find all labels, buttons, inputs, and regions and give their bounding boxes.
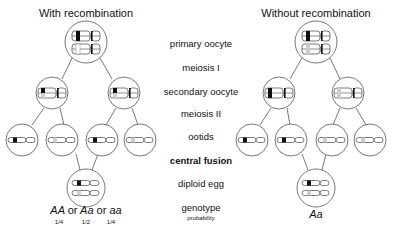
or-text: or [97, 204, 107, 216]
or-text: or [68, 204, 78, 216]
left-genotypes: AA or Aa or aa [50, 204, 121, 216]
left-panel-title: With recombination [39, 7, 133, 19]
stage-meiosis-2: meiosis II [181, 108, 221, 119]
prob-aa: 1/4 [107, 219, 115, 225]
genotype-Aa: Aa [80, 204, 93, 216]
prob-AA: 1/4 [55, 219, 63, 225]
stage-primary-oocyte: primary oocyte [170, 38, 232, 49]
stage-secondary-oocyte: secondary oocyte [164, 86, 238, 97]
stage-meiosis-1: meiosis I [182, 62, 219, 73]
stage-probability: probability [187, 215, 214, 221]
right-genotype: Aa [309, 208, 322, 220]
prob-Aa: 1/2 [82, 219, 90, 225]
stage-ootids: ootids [188, 131, 213, 142]
genotype-AA: AA [50, 204, 64, 216]
stage-genotype: genotype [181, 202, 220, 213]
right-panel-title: Without recombination [261, 7, 370, 19]
genotype-aa: aa [109, 204, 121, 216]
stage-central-fusion: central fusion [170, 155, 232, 166]
stage-diploid-egg: diploid egg [178, 178, 224, 189]
